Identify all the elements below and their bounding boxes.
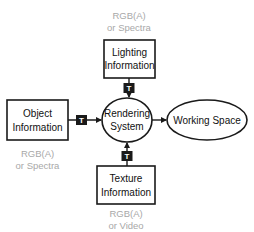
working-space-node: Working Space xyxy=(167,100,247,140)
lighting-note-line1: RGB(A) xyxy=(112,10,145,21)
lighting-note-line2: or Spectra xyxy=(107,22,152,33)
badge-label: T xyxy=(125,152,130,161)
object-t-badge: T xyxy=(76,115,87,125)
texture-label-line1: Texture xyxy=(110,173,143,184)
lighting-label-line2: Information xyxy=(104,60,154,71)
object-box xyxy=(7,100,68,140)
rendering-system-node: Rendering System xyxy=(102,98,152,142)
working-space-label: Working Space xyxy=(173,115,241,126)
badge-label: T xyxy=(127,84,132,93)
rendering-pipeline-diagram: RGB(A) or Spectra Lighting Information T… xyxy=(0,0,254,232)
lighting-label-line1: Lighting xyxy=(112,47,147,58)
texture-t-badge: T xyxy=(122,151,133,161)
texture-note-line2: or Video xyxy=(108,220,143,231)
badge-label: T xyxy=(79,116,84,125)
lighting-box xyxy=(104,40,155,78)
texture-label-line2: Information xyxy=(101,187,151,198)
rendering-label-line1: Rendering xyxy=(104,108,150,119)
object-node: Object Information RGB(A) or Spectra xyxy=(7,100,68,171)
texture-box xyxy=(97,166,155,204)
lighting-node: RGB(A) or Spectra Lighting Information xyxy=(104,10,155,78)
rendering-label-line2: System xyxy=(110,121,143,132)
object-note-line1: RGB(A) xyxy=(21,148,54,159)
texture-node: Texture Information RGB(A) or Video xyxy=(97,166,155,231)
rendering-ellipse xyxy=(102,98,152,142)
object-label-line2: Information xyxy=(12,122,62,133)
lighting-t-badge: T xyxy=(124,83,135,93)
object-note-line2: or Spectra xyxy=(16,160,61,171)
texture-note-line1: RGB(A) xyxy=(109,208,142,219)
object-label-line1: Object xyxy=(23,108,52,119)
